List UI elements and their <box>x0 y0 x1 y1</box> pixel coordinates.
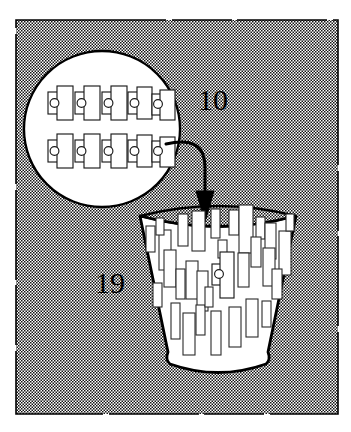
loose-card <box>229 307 241 347</box>
reference-numeral-19: 19 <box>95 266 125 299</box>
reference-numeral-10: 10 <box>198 83 228 116</box>
loose-card <box>238 253 249 287</box>
loose-card <box>171 303 180 339</box>
loose-card <box>286 214 294 231</box>
loose-card <box>205 287 213 307</box>
detail-circle-outline <box>24 51 180 207</box>
loose-card <box>279 231 291 275</box>
loose-card <box>211 311 221 355</box>
figure-canvas: 10 <box>0 0 351 432</box>
patent-figure-svg: 10 <box>0 0 351 432</box>
loose-card <box>262 301 271 327</box>
loose-card <box>146 226 155 252</box>
loose-card <box>164 250 176 287</box>
magnifier-detail-circle <box>24 51 180 207</box>
card-with-eyelet <box>128 87 152 119</box>
loose-card <box>251 237 261 267</box>
loose-card <box>196 305 205 335</box>
loose-card <box>178 214 188 246</box>
loose-card <box>229 210 239 235</box>
loose-card <box>246 299 258 337</box>
numeral-10-group: 10 <box>198 83 228 116</box>
card-with-eyelet <box>152 90 175 120</box>
loose-card <box>183 313 195 355</box>
loose-card <box>176 269 185 299</box>
loose-card <box>153 283 162 307</box>
loose-card <box>256 217 265 239</box>
loose-card <box>192 211 205 251</box>
loose-card <box>272 269 282 299</box>
loose-card <box>186 261 198 299</box>
loose-card <box>156 218 164 235</box>
loose-card <box>211 209 220 238</box>
card-with-eyelet <box>128 135 152 167</box>
